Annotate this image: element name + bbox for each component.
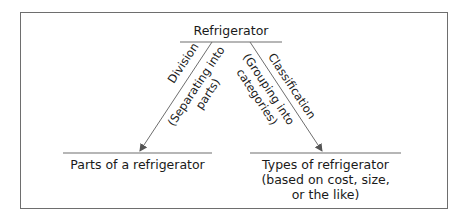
- types-detail-1: (based on cost, size,: [250, 172, 401, 187]
- types-detail-2: or the like): [250, 187, 401, 202]
- types-label: Types of refrigerator: [250, 157, 401, 172]
- types-node: Types of refrigerator (based on cost, si…: [250, 157, 401, 202]
- parts-node: Parts of a refrigerator: [63, 157, 212, 172]
- parts-label: Parts of a refrigerator: [63, 157, 212, 172]
